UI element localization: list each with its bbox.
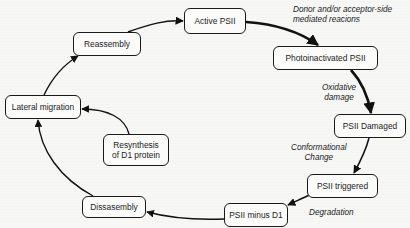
node-label: PSII minus D1 (229, 210, 283, 220)
node-label: Reassembly (84, 39, 130, 49)
edge-reassembly-to-active (128, 21, 183, 32)
node-label: PSII triggered (317, 181, 368, 191)
edge-label-text: Degradation (309, 208, 354, 217)
node-photoinactivated-psii: Photoinactivated PSII (273, 46, 378, 70)
node-disassembly: Dissasembly (82, 196, 146, 218)
node-psii-damaged: PSII Damaged (334, 114, 406, 138)
edge-label-degradation: Degradation (309, 208, 354, 218)
node-active-psii: Active PSII (184, 8, 246, 34)
edge-label-oxidative-damage: Oxidative damage (322, 83, 356, 104)
node-label: Lateral migration (12, 102, 74, 112)
node-psii-triggered: PSII triggered (307, 174, 378, 198)
edge-label-line1: Donor and/or acceptor-side (293, 5, 392, 15)
edge-resynthesis-to-lateral (82, 109, 129, 134)
edge-label-donor-acceptor: Donor and/or acceptor-side mediated reac… (293, 5, 392, 26)
edge-label-line1: Oxidative (322, 83, 356, 93)
node-psii-minus-d1: PSII minus D1 (224, 203, 288, 227)
edge-minus-d1-to-disassembly (147, 212, 224, 219)
edge-label-line1: Conformational (291, 143, 347, 153)
edge-damaged-to-triggered (354, 138, 369, 173)
node-label-line2: of D1 protein (112, 150, 160, 160)
node-label: Photoinactivated PSII (285, 53, 365, 63)
edge-disassembly-to-lateral (38, 120, 93, 196)
diagram-canvas: Active PSII Photoinactivated PSII PSII D… (0, 0, 410, 228)
edge-label-line2: damage (322, 93, 356, 103)
node-resynthesis-d1: Resynthesis of D1 protein (103, 134, 169, 166)
edge-label-line2: Change (291, 153, 347, 163)
node-reassembly: Reassembly (73, 32, 141, 56)
edge-label-conformational-change: Conformational Change (291, 143, 347, 164)
node-label: Dissasembly (90, 202, 137, 212)
edge-lateral-to-reassembly (44, 56, 78, 95)
node-lateral-migration: Lateral migration (5, 95, 81, 119)
node-label: PSII Damaged (343, 121, 397, 131)
edge-label-line2: mediated reacions (293, 15, 392, 25)
node-label-line1: Resynthesis (113, 140, 159, 150)
node-label: Active PSII (195, 16, 236, 26)
